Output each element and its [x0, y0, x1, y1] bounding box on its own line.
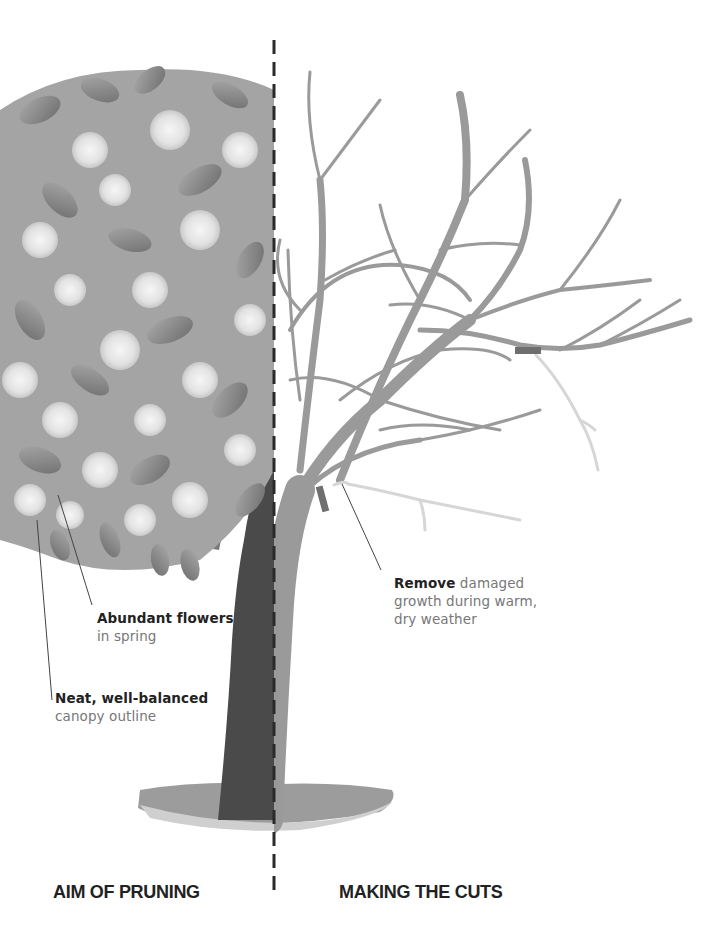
cut-marker-lower [316, 485, 329, 512]
annotation-remove-title: Remove [394, 575, 455, 591]
annotation-remove-detail-1: damaged [455, 575, 524, 591]
annotation-flowers-detail: in spring [97, 627, 234, 645]
annotation-canopy-title: Neat, well-balanced [55, 689, 208, 707]
heading-aim-of-pruning: AIM OF PRUNING [53, 882, 200, 903]
bare-branches [262, 72, 690, 820]
annotation-flowers-title: Abundant flowers [97, 609, 234, 627]
annotation-remove-detail-2: growth during warm, [394, 592, 537, 610]
damaged-growth [334, 355, 598, 530]
pruning-illustration [0, 0, 716, 941]
cut-marker-upper [515, 347, 541, 354]
annotation-canopy-outline: Neat, well-balanced canopy outline [55, 689, 208, 725]
annotation-canopy-detail: canopy outline [55, 707, 208, 725]
heading-making-the-cuts: MAKING THE CUTS [339, 882, 503, 903]
leader-line-remove [342, 484, 381, 570]
annotation-remove-detail-3: dry weather [394, 610, 537, 628]
annotation-abundant-flowers: Abundant flowers in spring [97, 609, 234, 645]
annotation-remove-damaged: Remove damaged growth during warm, dry w… [394, 574, 537, 628]
